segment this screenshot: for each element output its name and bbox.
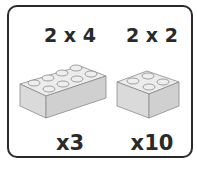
brick-quantity-2x4: x3 xyxy=(40,131,100,155)
brick-2x4-icon xyxy=(18,56,113,120)
brick-size-label-2x4: 2 x 4 xyxy=(40,24,100,46)
brick-size-label-2x2: 2 x 2 xyxy=(122,24,182,46)
brick-quantity-2x2: x10 xyxy=(122,131,182,155)
brick-2x2-icon xyxy=(115,66,185,122)
